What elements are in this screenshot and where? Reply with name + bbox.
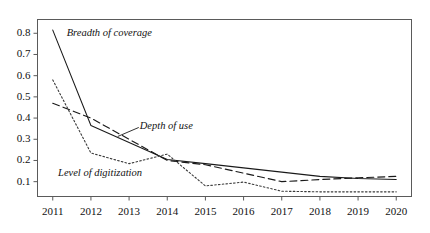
series-annotation-label: Level of digitization: [58, 167, 142, 178]
y-tick-label: 0.4: [2, 111, 31, 123]
y-tick-label: 0.7: [2, 47, 31, 59]
x-tick-label: 2020: [372, 205, 420, 217]
y-axis-ticks: [34, 33, 38, 181]
series-annotation-label: Depth of use: [140, 120, 193, 131]
annotation-leader-line: [118, 127, 139, 136]
y-tick-label: 0.3: [2, 132, 31, 144]
y-tick-label: 0.1: [2, 175, 31, 187]
y-tick-label: 0.8: [2, 26, 31, 38]
line-chart: 0.10.20.30.40.50.60.70.82011201220132014…: [0, 0, 430, 233]
y-tick-label: 0.5: [2, 90, 31, 102]
plot-area: [0, 0, 430, 233]
y-tick-label: 0.2: [2, 153, 31, 165]
series-annotation-label: Breadth of coverage: [67, 27, 152, 38]
x-axis-ticks: [53, 197, 396, 201]
y-tick-label: 0.6: [2, 69, 31, 81]
